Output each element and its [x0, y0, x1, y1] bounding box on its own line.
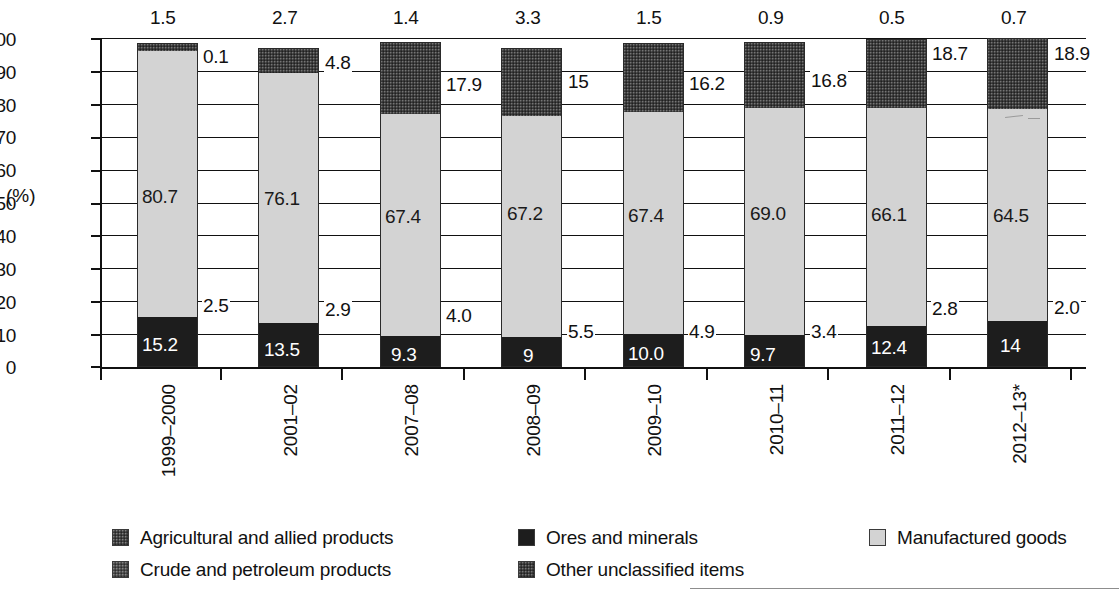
scan-artifact [1028, 118, 1040, 119]
bar-upper-right-label-2008-09: 15 [567, 72, 590, 91]
bar-top-label-2001-02: 2.7 [272, 8, 298, 27]
bar-top-label-2010-11: 0.9 [758, 8, 784, 27]
bar-upper-right-label-1999-2000: 0.1 [202, 47, 230, 66]
legend-label-crude: Crude and petroleum products [140, 560, 391, 579]
bar-top-label-2008-09: 3.3 [515, 8, 541, 27]
bar-2011-12[interactable] [866, 39, 927, 367]
x-category-label-2010-11: 2010–11 [767, 384, 786, 455]
x-tick-2 [341, 369, 343, 380]
bar-top-label-2011-12: 0.5 [879, 8, 905, 27]
y-tick-label-10: 10 [0, 326, 16, 345]
bar-lower-right-label-2008-09: 5.5 [567, 322, 595, 341]
y-tick-label-80: 80 [0, 96, 16, 115]
x-category-label-2009-10: 2009–10 [645, 384, 664, 457]
bar-lower-right-label-1999-2000: 2.5 [202, 296, 230, 315]
x-tick-6 [827, 369, 829, 380]
bar-segment-other-unclassified [866, 39, 927, 108]
x-tick-1 [220, 369, 222, 380]
legend-swatch-other-icon [518, 561, 535, 578]
x-tick-5 [706, 369, 708, 380]
x-axis-line [100, 367, 1086, 369]
bar-segment-other-unclassified [623, 43, 684, 112]
bar-segment-other-unclassified [987, 38, 1048, 109]
x-category-label-1999-2000: 1999–2000 [159, 384, 178, 477]
bar-2007-08[interactable] [380, 42, 441, 367]
bar-manufactured-label-2009-10: 67.4 [628, 206, 664, 225]
bar-upper-right-label-2007-08: 17.9 [445, 75, 483, 94]
bar-2012-13[interactable] [987, 38, 1048, 367]
y-axis-line [100, 38, 102, 367]
bar-ores-label-2012-13: 14 [1000, 336, 1021, 355]
gridline-100 [100, 38, 1086, 39]
bar-segment-other-unclassified [380, 42, 441, 114]
x-tick-0 [100, 369, 102, 380]
legend-label-ores: Ores and minerals [546, 528, 698, 547]
bar-ores-label-2011-12: 12.4 [871, 338, 907, 357]
legend-item-manufactured-goods[interactable]: Manufactured goods [869, 528, 1067, 547]
bar-top-label-2007-08: 1.4 [393, 8, 419, 27]
bar-segment-other-unclassified [501, 48, 562, 116]
bar-segment-other-unclassified [137, 43, 198, 51]
x-tick-4 [584, 369, 586, 380]
bar-segment-other-unclassified [258, 48, 319, 73]
x-category-label-2012-13: 2012–13* [1010, 384, 1029, 464]
bar-manufactured-label-2001-02: 76.1 [264, 189, 300, 208]
bar-upper-right-label-2011-12: 18.7 [931, 44, 969, 63]
legend-label-manufactured: Manufactured goods [897, 528, 1067, 547]
bar-upper-right-label-2012-13: 18.9 [1053, 44, 1091, 63]
bar-upper-right-label-2001-02: 4.8 [324, 53, 352, 72]
chart-legend: Agricultural and allied products Crude a… [0, 524, 1119, 591]
bar-upper-right-label-2010-11: 16.8 [810, 71, 848, 90]
bar-ores-label-2008-09: 9 [523, 346, 533, 365]
bar-lower-right-label-2010-11: 3.4 [810, 322, 838, 341]
legend-swatch-agricultural-icon [112, 529, 129, 546]
legend-item-agricultural-and-allied-products[interactable]: Agricultural and allied products [112, 528, 393, 547]
legend-item-crude-and-petroleum-products[interactable]: Crude and petroleum products [112, 560, 391, 579]
bar-manufactured-label-2010-11: 69.0 [750, 204, 786, 223]
bar-segment-other-unclassified [744, 42, 805, 108]
bar-lower-right-label-2009-10: 4.9 [688, 322, 716, 341]
bar-manufactured-label-2012-13: 64.5 [993, 206, 1029, 225]
bar-lower-right-label-2007-08: 4.0 [445, 306, 473, 325]
x-tick-7 [949, 369, 951, 380]
y-tick-label-100: 100 [0, 30, 16, 49]
x-category-label-2011-12: 2011–12 [888, 384, 907, 455]
y-tick-label-70: 70 [0, 128, 16, 147]
legend-swatch-ores-icon [518, 529, 535, 546]
gridline-70 [100, 137, 1086, 138]
y-tick-label-40: 40 [0, 227, 16, 246]
bar-ores-label-2007-08: 9.3 [391, 345, 417, 364]
gridline-40 [100, 235, 1086, 236]
gridline-80 [100, 104, 1086, 105]
bar-ores-label-2010-11: 9.7 [750, 345, 776, 364]
legend-item-other-unclassified-items[interactable]: Other unclassified items [518, 560, 744, 579]
bar-top-label-2012-13: 0.7 [1001, 8, 1027, 27]
gridline-50 [100, 203, 1086, 204]
bar-lower-right-label-2012-13: 2.0 [1053, 298, 1081, 317]
x-category-label-2008-09: 2008–09 [524, 384, 543, 457]
bar-ores-label-2001-02: 13.5 [264, 340, 300, 359]
x-tick-8 [1070, 369, 1072, 380]
y-tick-label-50: 50 [0, 194, 16, 213]
bar-segment-manufactured-goods [137, 51, 198, 317]
legend-swatch-manufactured-icon [869, 529, 886, 546]
gridline-90 [100, 71, 1086, 72]
legend-label-other: Other unclassified items [546, 560, 744, 579]
y-tick-label-0: 0 [0, 358, 16, 377]
x-category-label-2007-08: 2007–08 [402, 384, 421, 457]
legend-swatch-crude-icon [112, 561, 129, 578]
chart-figure: (%) 100 90 80 70 60 50 40 30 20 10 0 [0, 0, 1119, 591]
bar-ores-label-1999-2000: 15.2 [142, 335, 178, 354]
legend-item-ores-and-minerals[interactable]: Ores and minerals [518, 528, 698, 547]
y-tick-label-60: 60 [0, 161, 16, 180]
bar-lower-right-label-2001-02: 2.9 [324, 300, 352, 319]
y-tick-label-20: 20 [0, 293, 16, 312]
bar-lower-right-label-2011-12: 2.8 [931, 299, 959, 318]
bar-top-label-2009-10: 1.5 [636, 8, 662, 27]
legend-label-agricultural: Agricultural and allied products [140, 528, 393, 547]
bar-manufactured-label-2011-12: 66.1 [871, 205, 907, 224]
bar-manufactured-label-2008-09: 67.2 [507, 204, 543, 223]
gridline-30 [100, 268, 1086, 269]
bar-ores-label-2009-10: 10.0 [628, 344, 664, 363]
bar-top-label-1999-2000: 1.5 [150, 8, 176, 27]
